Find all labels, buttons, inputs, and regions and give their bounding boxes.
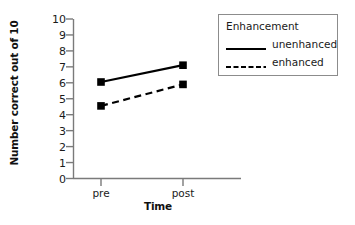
legend-label-unenhanced: unenhanced	[272, 38, 337, 50]
y-tick-label: 2	[40, 141, 66, 152]
data-point-unenhanced-pre	[97, 78, 105, 86]
legend-sample-dashed-icon	[226, 57, 266, 67]
y-axis-ticks	[66, 19, 73, 179]
series-unenhanced	[97, 61, 187, 85]
y-axis-title: Number correct out of 10	[8, 20, 20, 165]
y-tick-label: 9	[40, 29, 66, 40]
legend-entry-enhanced: enhanced	[226, 55, 324, 69]
y-tick-label: 10	[40, 14, 66, 25]
x-tick-label-post: post	[172, 187, 195, 199]
x-tick-label-pre: pre	[92, 187, 109, 199]
data-point-unenhanced-post	[179, 61, 187, 69]
series-enhanced-line	[101, 84, 183, 106]
series-unenhanced-line	[101, 65, 183, 82]
data-point-enhanced-pre	[97, 102, 105, 110]
y-tick-label: 6	[40, 77, 66, 88]
legend-sample-solid-icon	[226, 39, 266, 49]
y-axis-title-wrap: Number correct out of 10	[4, 0, 24, 186]
y-tick-label: 4	[40, 109, 66, 120]
y-tick-label: 8	[40, 45, 66, 56]
legend-title: Enhancement	[226, 20, 299, 32]
data-point-enhanced-post	[179, 81, 187, 89]
y-tick-label: 3	[40, 125, 66, 136]
series-enhanced	[97, 81, 187, 110]
y-tick-label: 0	[40, 173, 66, 184]
legend-entry-unenhanced: unenhanced	[226, 37, 337, 51]
x-axis-tick-labels: pre post	[0, 184, 355, 200]
line-chart-figure: 10 9 8 7 6 5 4 3 2 1 0 pre post Number c…	[0, 0, 355, 225]
x-axis-title: Time	[73, 200, 243, 212]
y-tick-label: 7	[40, 61, 66, 72]
legend-box: Enhancement unenhanced enhanced	[218, 14, 338, 76]
legend-label-enhanced: enhanced	[272, 56, 324, 68]
y-tick-label: 5	[40, 93, 66, 104]
y-tick-label: 1	[40, 157, 66, 168]
